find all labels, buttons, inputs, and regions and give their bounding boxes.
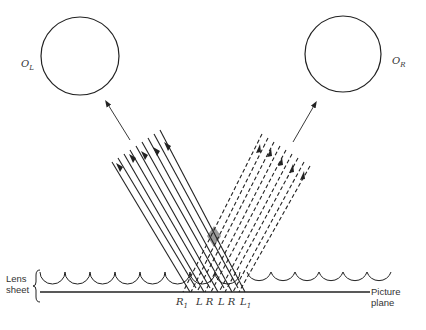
lens-sheet-brace bbox=[33, 270, 40, 302]
strip-label-lr-1: L R bbox=[196, 296, 213, 307]
left-eye-circle bbox=[41, 17, 119, 95]
dashed-ray-bundle bbox=[183, 134, 310, 292]
lens-sheet bbox=[40, 272, 391, 284]
diagram-canvas bbox=[0, 0, 426, 330]
right-eye-circle bbox=[305, 16, 381, 92]
strip-label-r1: R1 bbox=[176, 296, 188, 310]
lenticular-diagram: OL OR Lens sheet Picture plane R1 L R L … bbox=[0, 0, 426, 330]
arrow-to-right bbox=[293, 104, 315, 142]
picture-plane-label: Picture plane bbox=[371, 286, 426, 308]
strip-label-l1: L1 bbox=[240, 296, 251, 310]
object-right-label: OR bbox=[392, 55, 405, 69]
object-left-label: OL bbox=[21, 58, 34, 72]
lens-sheet-label: Lens sheet bbox=[6, 273, 29, 295]
arrow-to-left bbox=[107, 103, 130, 140]
solid-ray-bundle bbox=[112, 130, 245, 292]
strip-label-lr-2: L R bbox=[218, 296, 235, 307]
